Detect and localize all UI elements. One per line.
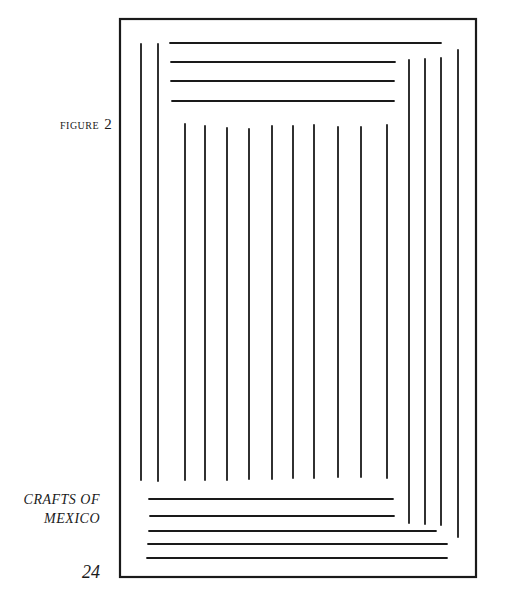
figure-lines (141, 43, 458, 558)
page-number: 24 (82, 562, 100, 583)
figure-frame (120, 19, 476, 577)
running-title-line1: CRAFTS OF (24, 490, 100, 509)
running-title-line2: MEXICO (24, 509, 100, 528)
running-title: CRAFTS OF MEXICO (24, 490, 100, 528)
